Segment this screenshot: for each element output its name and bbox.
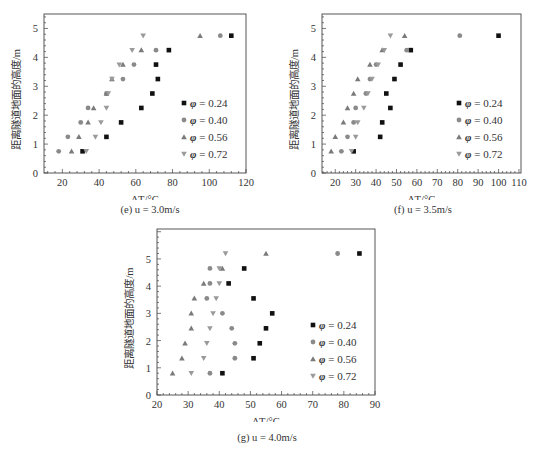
data-point xyxy=(140,33,146,38)
data-point xyxy=(167,48,172,53)
caption-e: (e) u = 3.0m/s xyxy=(95,204,205,215)
y-tick-label: 0 xyxy=(311,168,316,179)
x-tick-label: 60 xyxy=(412,177,423,188)
x-tick-label: 70 xyxy=(307,399,318,410)
data-point xyxy=(457,33,462,38)
data-point xyxy=(213,296,219,301)
data-point xyxy=(351,91,357,96)
y-tick-label: 1 xyxy=(33,139,38,150)
data-point xyxy=(251,296,256,301)
data-point xyxy=(98,120,104,125)
legend-marker-circle xyxy=(311,340,316,345)
data-point xyxy=(353,135,359,140)
legend-marker-triangle-up xyxy=(456,134,462,139)
x-axis-label: ΔT/°C xyxy=(408,194,435,200)
legend-label: φ = 0.56 xyxy=(190,131,228,143)
scatter-plot-g: 2030405060708090012345ΔT/°C距离隧道地面的高度/mφ … xyxy=(100,222,430,422)
x-tick-label: 40 xyxy=(94,177,105,188)
data-point xyxy=(139,47,145,52)
y-tick-label: 1 xyxy=(311,139,316,150)
data-point xyxy=(204,341,210,346)
x-tick-label: 100 xyxy=(491,177,507,188)
y-tick-label: 5 xyxy=(33,23,38,34)
data-point xyxy=(355,76,361,81)
data-point xyxy=(188,371,194,376)
x-tick-label: 20 xyxy=(330,177,341,188)
data-point xyxy=(408,48,413,53)
data-point xyxy=(341,120,347,125)
legend-label: φ = 0.24 xyxy=(465,97,503,109)
data-point xyxy=(251,356,256,361)
legend: φ = 0.24φ = 0.40φ = 0.56φ = 0.72 xyxy=(310,319,357,382)
y-tick-label: 3 xyxy=(33,81,38,92)
data-point xyxy=(335,251,340,256)
x-tick-label: 80 xyxy=(339,399,350,410)
data-point xyxy=(496,33,501,38)
y-tick-label: 0 xyxy=(146,390,151,401)
data-point xyxy=(242,266,247,271)
data-point xyxy=(392,77,397,82)
data-point xyxy=(257,341,262,346)
x-tick-label: 110 xyxy=(511,177,526,188)
data-point xyxy=(216,281,222,286)
x-tick-label: 90 xyxy=(473,177,484,188)
data-point xyxy=(232,341,237,346)
data-point xyxy=(232,356,237,361)
data-point xyxy=(119,120,124,125)
caption-g: (g) u = 4.0m/s xyxy=(212,432,322,443)
legend-label: φ = 0.40 xyxy=(190,114,228,126)
legend-label: φ = 0.24 xyxy=(190,97,228,109)
data-point xyxy=(208,281,213,286)
data-point xyxy=(384,91,389,96)
data-point xyxy=(139,106,144,111)
y-axis-label: 距离隧道地面的高度/m xyxy=(288,49,300,150)
data-point xyxy=(263,251,269,256)
data-point xyxy=(398,62,403,67)
y-axis-label: 距离隧道地面的高度/m xyxy=(123,267,135,368)
y-tick-label: 3 xyxy=(146,308,151,319)
legend: φ = 0.24φ = 0.40φ = 0.56φ = 0.72 xyxy=(181,97,228,160)
legend: φ = 0.24φ = 0.40φ = 0.56φ = 0.72 xyxy=(456,97,503,160)
data-point xyxy=(361,106,367,111)
data-point xyxy=(129,48,135,53)
x-tick-label: 90 xyxy=(370,399,381,410)
data-point xyxy=(223,251,229,256)
y-tick-label: 2 xyxy=(33,110,38,121)
data-point xyxy=(218,33,223,38)
x-axis-label: ΔT/°C xyxy=(131,194,158,200)
data-point xyxy=(150,91,155,96)
series-triangle-up xyxy=(69,33,203,154)
series-triangle-down xyxy=(83,33,146,154)
legend-marker-triangle-down xyxy=(456,152,462,157)
y-tick-label: 5 xyxy=(146,254,151,265)
legend-marker-triangle-down xyxy=(310,374,316,379)
x-tick-label: 80 xyxy=(452,177,463,188)
data-point xyxy=(220,371,225,376)
data-point xyxy=(345,105,351,110)
x-tick-label: 50 xyxy=(245,399,256,410)
data-point xyxy=(85,120,91,125)
data-point xyxy=(78,120,83,125)
data-point xyxy=(154,48,159,53)
data-point xyxy=(229,33,234,38)
data-point xyxy=(69,149,75,154)
legend-label: φ = 0.40 xyxy=(465,114,503,126)
legend-label: φ = 0.72 xyxy=(190,148,227,160)
data-point xyxy=(65,134,70,139)
scatter-plot-f: 2030405060708090100110012345ΔT/°C距离隧道地面的… xyxy=(270,0,537,200)
data-point xyxy=(339,149,344,154)
data-point xyxy=(208,371,213,376)
x-tick-label: 60 xyxy=(276,399,287,410)
data-point xyxy=(76,134,82,139)
data-point xyxy=(201,281,207,286)
data-point xyxy=(204,296,209,301)
data-point xyxy=(170,370,176,375)
x-tick-label: 40 xyxy=(371,177,382,188)
data-point xyxy=(220,311,225,316)
x-tick-label: 20 xyxy=(57,177,68,188)
data-point xyxy=(380,120,385,125)
data-point xyxy=(93,135,99,140)
data-point xyxy=(86,106,91,111)
data-point xyxy=(188,311,194,316)
data-point xyxy=(188,326,194,331)
